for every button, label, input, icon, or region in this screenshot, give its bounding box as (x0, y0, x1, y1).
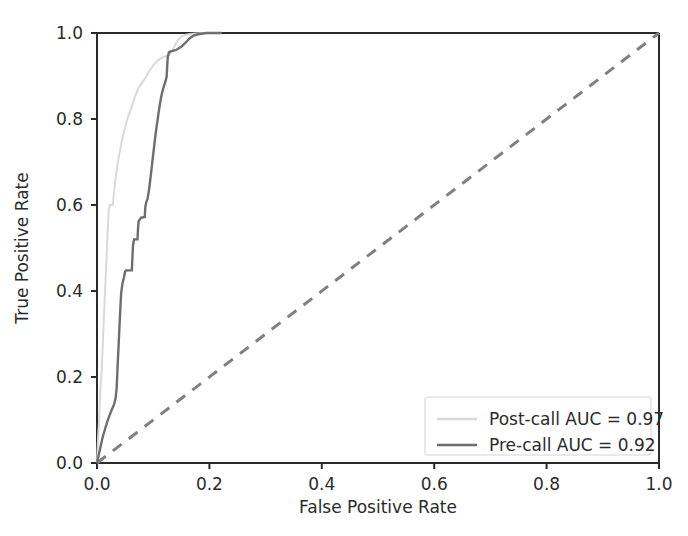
chart-legend[interactable]: Post-call AUC = 0.97Pre-call AUC = 0.92 (425, 397, 664, 455)
x-tick-label-0: 0.0 (83, 474, 110, 494)
x-tick-label-4: 0.8 (533, 474, 560, 494)
x-tick-label-3: 0.6 (421, 474, 448, 494)
y-tick-label-2: 0.4 (56, 281, 83, 301)
y-tick-label-4: 0.8 (56, 109, 83, 129)
legend-label-0: Post-call AUC = 0.97 (489, 409, 664, 429)
y-tick-label-3: 0.6 (56, 195, 83, 215)
x-tick-label-5: 1.0 (645, 474, 672, 494)
roc-chart-figure: 0.00.20.40.60.81.0 0.00.20.40.60.81.0 Fa… (0, 0, 688, 536)
y-tick-label-5: 1.0 (56, 23, 83, 43)
legend-label-1: Pre-call AUC = 0.92 (489, 435, 656, 455)
y-tick-label-1: 0.2 (56, 367, 83, 387)
y-axis-tick-labels: 0.00.20.40.60.81.0 (56, 23, 83, 473)
roc-plot: 0.00.20.40.60.81.0 0.00.20.40.60.81.0 Fa… (0, 0, 688, 536)
x-axis-tick-labels: 0.00.20.40.60.81.0 (83, 474, 672, 494)
y-axis-title: True Positive Rate (12, 172, 32, 324)
x-axis-title: False Positive Rate (299, 497, 457, 517)
x-tick-label-2: 0.4 (308, 474, 335, 494)
x-tick-label-1: 0.2 (196, 474, 223, 494)
y-tick-label-0: 0.0 (56, 453, 83, 473)
